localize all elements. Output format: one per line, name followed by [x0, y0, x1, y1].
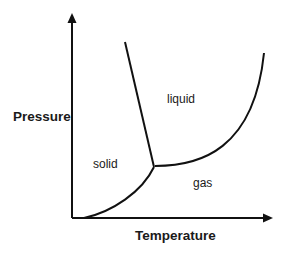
vaporization-curve [155, 53, 264, 166]
sublimation-curve [84, 167, 154, 218]
y-axis-arrow-icon [68, 13, 77, 23]
x-axis-label: Temperature [135, 228, 216, 243]
region-label-gas: gas [193, 176, 212, 190]
y-axis-label: Pressure [13, 109, 71, 124]
region-label-solid: solid [93, 157, 118, 171]
phase-diagram: Pressure Temperature liquid solid gas [0, 0, 283, 257]
x-axis-arrow-icon [263, 214, 273, 223]
melting-curve [125, 42, 154, 167]
x-axis [72, 214, 273, 223]
region-label-liquid: liquid [167, 92, 195, 106]
